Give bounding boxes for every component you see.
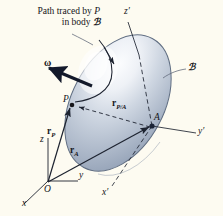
point-p-label: P <box>63 94 69 105</box>
caption-line2-prefix: in body <box>62 17 93 27</box>
body-label-script-b: ℬ <box>188 62 195 73</box>
z-prime-label: z′ <box>124 6 130 17</box>
rigid-body-kinematics-figure: Path traced by P in body ℬ ℬ ω z′ y′ x′ … <box>0 0 223 216</box>
origin-label: O <box>44 184 51 195</box>
caption-leader-line <box>72 34 93 45</box>
y-prime-axis <box>152 126 196 133</box>
point-p-marker <box>70 103 75 108</box>
r-p-over-a-label: rP/A <box>112 98 126 110</box>
r-pa-label-sub: P/A <box>116 103 126 110</box>
caption-line2-script-b: ℬ <box>93 16 100 27</box>
r-p-label: rP <box>47 126 55 138</box>
point-a-label: A <box>154 112 160 123</box>
x-prime-label: x′ <box>102 187 108 198</box>
z-label: z <box>40 134 44 145</box>
caption-line-1: Path traced by P <box>4 6 100 17</box>
r-p-label-sub: P <box>51 131 55 138</box>
caption-line1-prefix: Path traced by <box>37 6 94 16</box>
r-a-label-sub: A <box>74 150 78 157</box>
caption-path-traced: Path traced by P in body ℬ <box>4 6 100 28</box>
r-a-label: rA <box>70 145 79 157</box>
y-label: y <box>79 170 83 181</box>
caption-line1-italic: P <box>94 6 100 16</box>
point-a-marker <box>149 123 154 128</box>
y-prime-label: y′ <box>198 126 204 137</box>
caption-line-2: in body ℬ <box>4 17 100 28</box>
omega-label: ω <box>44 57 51 69</box>
x-label: x <box>22 198 26 209</box>
